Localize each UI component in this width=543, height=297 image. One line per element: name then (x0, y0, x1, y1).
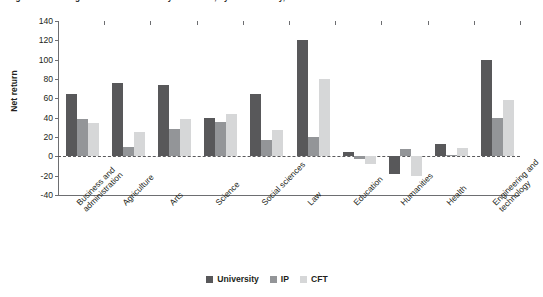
x-tick-mark (104, 21, 105, 25)
bar-ip-8 (446, 155, 457, 156)
bar-university-2 (158, 85, 169, 157)
bar-cft-3 (226, 114, 237, 157)
bar-university-4 (250, 94, 261, 157)
legend-label: IP (281, 275, 289, 284)
x-tick-mark (58, 21, 59, 25)
y-tick-label: 120 (39, 36, 53, 45)
bar-cft-2 (180, 119, 191, 157)
bar-cft-1 (134, 132, 145, 156)
bar-cft-9 (503, 100, 514, 156)
legend-swatch-icon (270, 276, 277, 283)
bar-university-6 (343, 152, 354, 156)
x-tick-mark (520, 21, 521, 25)
bar-ip-5 (308, 137, 319, 156)
chart-title: Figure 3.4. Average net returns to terti… (8, 0, 361, 2)
bar-university-5 (297, 40, 308, 156)
bar-ip-4 (261, 140, 272, 156)
legend-swatch-icon (206, 276, 213, 283)
x-tick-mark (335, 21, 336, 25)
y-tick-mark (55, 60, 58, 61)
x-tick-mark (474, 21, 475, 25)
bar-ip-6 (354, 156, 365, 159)
y-tick-label: -20 (41, 171, 53, 180)
bar-university-1 (112, 83, 123, 156)
bar-ip-3 (215, 122, 226, 157)
y-tick-mark (55, 98, 58, 99)
bar-cft-0 (88, 123, 99, 157)
legend-swatch-icon (300, 276, 307, 283)
y-tick-mark (55, 40, 58, 41)
legend-label: CFT (311, 275, 328, 284)
bar-cft-7 (411, 156, 422, 175)
x-tick-mark (428, 21, 429, 25)
y-tick-mark (55, 118, 58, 119)
y-tick-label: 80 (43, 75, 53, 84)
bar-cft-5 (319, 79, 330, 156)
y-tick-mark (55, 137, 58, 138)
zero-reference-line (58, 156, 520, 157)
legend-label: University (217, 275, 259, 284)
bar-university-8 (435, 144, 446, 157)
x-tick-mark (381, 21, 382, 25)
bar-ip-0 (77, 119, 88, 157)
y-tick-label: 20 (43, 133, 53, 142)
chart-legend: UniversityIPCFT (0, 275, 534, 284)
bar-university-7 (389, 156, 400, 173)
y-axis-line (58, 21, 59, 195)
bar-cft-6 (365, 156, 376, 164)
bar-cft-4 (272, 130, 283, 156)
bar-cft-8 (457, 148, 468, 157)
legend-item-ip[interactable]: IP (270, 275, 289, 284)
y-tick-label: 0 (48, 152, 53, 161)
x-tick-mark (289, 21, 290, 25)
y-tick-mark (55, 176, 58, 177)
x-tick-mark (150, 21, 151, 25)
legend-item-cft[interactable]: CFT (300, 275, 328, 284)
legend-item-university[interactable]: University (206, 275, 259, 284)
bar-university-0 (66, 94, 77, 156)
bar-ip-9 (492, 118, 503, 157)
x-tick-mark (243, 21, 244, 25)
bar-ip-1 (123, 147, 134, 157)
bar-university-3 (204, 118, 215, 157)
y-tick-label: 40 (43, 113, 53, 122)
y-axis-title: Net return (9, 51, 19, 131)
bar-ip-2 (169, 129, 180, 156)
bar-ip-7 (400, 149, 411, 157)
y-tick-label: 140 (39, 17, 53, 26)
y-tick-mark (55, 79, 58, 80)
bar-university-9 (481, 60, 492, 157)
y-tick-label: 60 (43, 94, 53, 103)
x-tick-mark (197, 21, 198, 25)
y-tick-label: 100 (39, 55, 53, 64)
y-tick-label: -40 (41, 191, 53, 200)
